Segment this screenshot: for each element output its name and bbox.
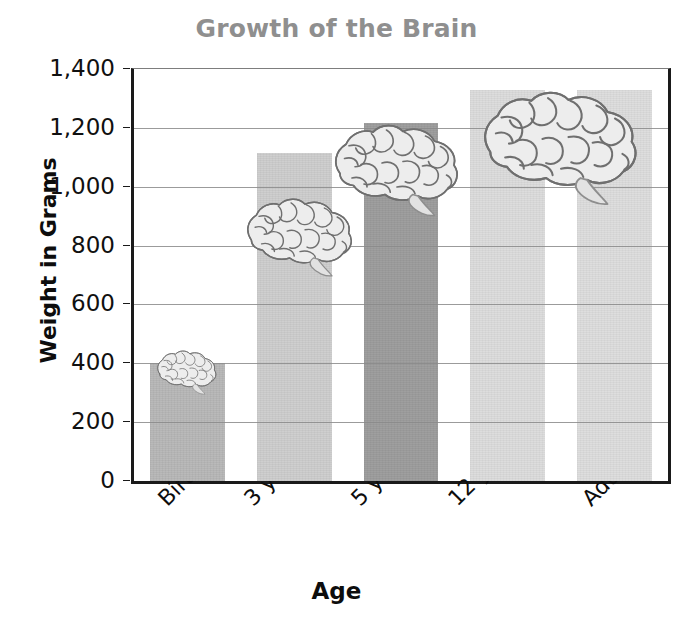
bar-3-years[interactable] [257, 153, 332, 481]
y-axis-tick-label: 1,200 [0, 114, 123, 140]
y-axis-tick-mark [123, 362, 130, 363]
x-axis-tick-labels: Birth3 years5 years12 yearsAdult [131, 487, 665, 577]
bar-fill [364, 123, 439, 481]
bar-fill [470, 90, 545, 481]
y-axis-tick-label: 800 [0, 232, 123, 258]
y-axis-tick-mark [123, 186, 130, 187]
y-axis-tick-mark [123, 127, 130, 128]
plot-area [131, 68, 671, 484]
y-axis-tick-mark [123, 245, 130, 246]
bar-adult[interactable] [577, 90, 652, 481]
y-axis-tick-label: 1,000 [0, 173, 123, 199]
x-axis-title: Age [0, 578, 673, 604]
y-axis-tick-mark [123, 303, 130, 304]
bar-fill [257, 153, 332, 481]
bar-12-years[interactable] [470, 90, 545, 481]
y-axis-tick-label: 600 [0, 290, 123, 316]
y-axis-tick-labels: 02004006008001,0001,2001,400 [0, 68, 123, 480]
y-axis-tick-label: 0 [0, 467, 123, 493]
bar-birth[interactable] [150, 363, 225, 481]
growth-of-the-brain-chart: Growth of the Brain Weight in Grams 0200… [0, 0, 673, 625]
y-axis-tick-label: 200 [0, 408, 123, 434]
bar-5-years[interactable] [364, 123, 439, 481]
bar-fill [150, 363, 225, 481]
y-axis-tick-mark [123, 68, 130, 69]
y-axis-tick-mark [123, 480, 130, 481]
y-axis-tick-label: 400 [0, 349, 123, 375]
y-axis-tick-label: 1,400 [0, 55, 123, 81]
y-axis-tick-mark [123, 421, 130, 422]
bar-fill [577, 90, 652, 481]
bars-layer [134, 69, 668, 481]
chart-title: Growth of the Brain [0, 14, 673, 43]
